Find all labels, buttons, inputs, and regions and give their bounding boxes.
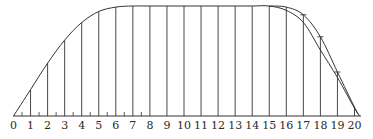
station-labels: 01234567891011121314151617181920: [10, 119, 362, 132]
station-label: 15: [262, 119, 276, 132]
station-label: 8: [146, 119, 153, 132]
station-label: 0: [10, 119, 17, 132]
curve-inner-run: [14, 6, 360, 116]
station-label: 3: [61, 119, 68, 132]
station-label: 9: [163, 119, 170, 132]
curve-outer-run: [269, 6, 359, 116]
station-label: 7: [129, 119, 136, 132]
station-label: 12: [211, 119, 225, 132]
station-label: 4: [78, 119, 85, 132]
station-label: 2: [44, 119, 51, 132]
station-label: 14: [245, 119, 259, 132]
station-label: 6: [112, 119, 119, 132]
station-label: 20: [348, 119, 362, 132]
station-label: 19: [330, 119, 344, 132]
sectional-area-diagram: 01234567891011121314151617181920: [0, 0, 373, 139]
station-label: 1: [27, 119, 34, 132]
station-label: 13: [228, 119, 242, 132]
station-label: 10: [177, 119, 191, 132]
station-label: 16: [279, 119, 293, 132]
station-label: 5: [95, 119, 102, 132]
station-label: 11: [194, 119, 208, 132]
station-ordinates: [31, 6, 355, 116]
station-label: 17: [296, 119, 310, 132]
station-label: 18: [313, 119, 327, 132]
